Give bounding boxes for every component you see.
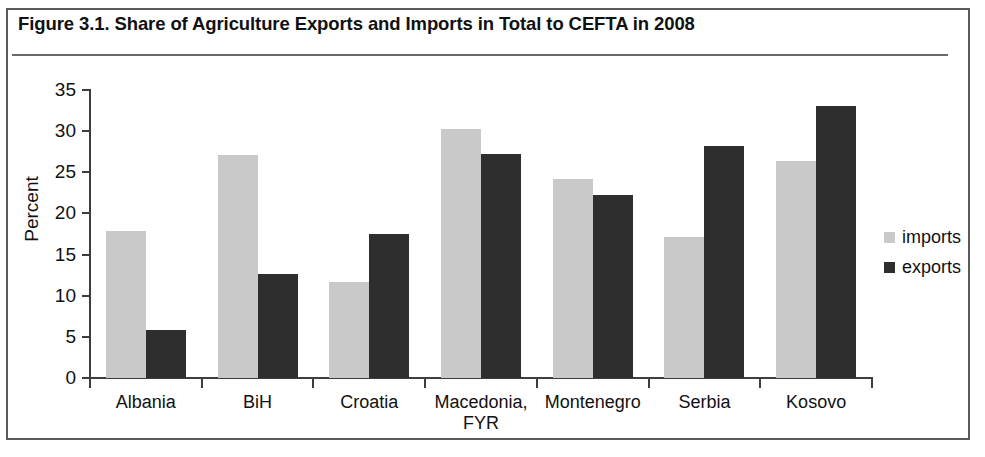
bar-imports-macedonia-fyr — [441, 129, 481, 378]
square-swatch-icon — [884, 232, 895, 243]
x-axis-category-label: Macedonia,FYR — [425, 392, 537, 434]
x-axis-category-label-line: Croatia — [313, 392, 425, 413]
bar-imports-kosovo — [776, 161, 816, 378]
x-axis-category-label-line: Macedonia, — [425, 392, 537, 413]
legend-label-imports: imports — [902, 227, 961, 248]
bar-exports-serbia — [704, 146, 744, 378]
x-axis-category-label: Albania — [90, 392, 202, 413]
bar-imports-bih — [218, 155, 258, 378]
x-axis-tick — [89, 379, 91, 388]
legend-item-exports[interactable]: exports — [884, 252, 961, 282]
x-axis-category-label: Serbia — [649, 392, 761, 413]
x-axis-category-label-line: BiH — [202, 392, 314, 413]
bar-chart: Percent 05101520253035 AlbaniaBiHCroatia… — [0, 0, 985, 457]
x-axis-tick — [648, 379, 650, 388]
x-axis-category-label-line: FYR — [425, 413, 537, 434]
bar-exports-albania — [146, 330, 186, 378]
bar-exports-bih — [258, 274, 298, 379]
x-axis-category-label: BiH — [202, 392, 314, 413]
x-axis-category-label: Kosovo — [760, 392, 872, 413]
x-axis-tick — [312, 379, 314, 388]
bar-exports-croatia — [369, 234, 409, 378]
x-axis-tick — [424, 379, 426, 388]
legend-label-exports: exports — [902, 257, 961, 278]
x-axis-tick — [201, 379, 203, 388]
x-axis-category-label: Croatia — [313, 392, 425, 413]
bar-exports-kosovo — [816, 106, 856, 378]
x-axis-tick — [536, 379, 538, 388]
bar-imports-albania — [106, 231, 146, 378]
x-axis-category-label-line: Albania — [90, 392, 202, 413]
bar-exports-macedonia-fyr — [481, 154, 521, 378]
x-axis-category-label-line: Montenegro — [537, 392, 649, 413]
x-axis-category-label-line: Serbia — [649, 392, 761, 413]
x-axis-tick — [871, 379, 873, 388]
bar-imports-montenegro — [553, 179, 593, 378]
bars-layer — [0, 0, 985, 378]
bar-imports-croatia — [329, 282, 369, 378]
bar-imports-serbia — [664, 237, 704, 378]
x-axis-tick — [759, 379, 761, 388]
x-axis-category-label-line: Kosovo — [760, 392, 872, 413]
legend-item-imports[interactable]: imports — [884, 222, 961, 252]
bar-exports-montenegro — [593, 195, 633, 378]
chart-legend: imports exports — [884, 222, 961, 282]
square-swatch-icon — [884, 262, 895, 273]
x-axis-category-label: Montenegro — [537, 392, 649, 413]
